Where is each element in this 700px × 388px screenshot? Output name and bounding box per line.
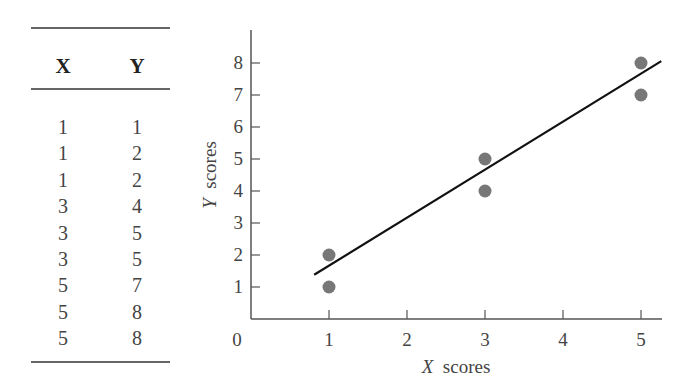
scatter-plot: 12345678012345 X scores Y scores — [0, 0, 700, 388]
data-point — [479, 185, 492, 198]
x-tick-label: 2 — [402, 329, 412, 350]
x-tick-label: 1 — [324, 329, 334, 350]
y-tick-label: 8 — [234, 52, 244, 73]
x-tick-label: 3 — [480, 329, 490, 350]
data-points — [323, 57, 648, 294]
regression-line — [314, 61, 661, 275]
x-axis-label: X scores — [421, 356, 491, 377]
x-tick-label: 5 — [636, 329, 646, 350]
x-tick-label: 4 — [558, 329, 568, 350]
data-point — [635, 57, 648, 70]
data-point — [479, 153, 492, 166]
y-axis-label: Y scores — [199, 141, 220, 209]
data-point — [323, 281, 336, 294]
y-tick-label: 4 — [234, 180, 244, 201]
y-tick-label: 6 — [234, 116, 244, 137]
y-tick-label: 5 — [234, 148, 244, 169]
y-tick-label: 2 — [234, 244, 244, 265]
x-tick-label: 0 — [232, 329, 242, 350]
data-point — [323, 249, 336, 262]
y-tick-label: 1 — [234, 276, 244, 297]
data-point — [635, 89, 648, 102]
regression-line-path — [314, 61, 661, 275]
y-tick-label: 3 — [234, 212, 244, 233]
y-tick-label: 7 — [234, 84, 244, 105]
axes: 12345678012345 — [232, 30, 662, 350]
